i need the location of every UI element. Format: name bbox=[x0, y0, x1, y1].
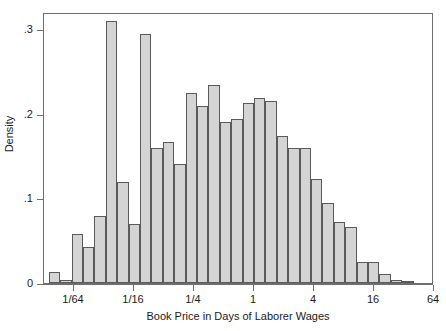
y-tick-label: .3 bbox=[24, 24, 33, 35]
histogram-bar bbox=[368, 262, 379, 283]
histogram-bar bbox=[391, 280, 402, 283]
histogram-bar bbox=[163, 142, 174, 283]
x-tick-label: 1/16 bbox=[122, 293, 143, 305]
histogram-bar bbox=[243, 103, 254, 283]
histogram-bar bbox=[106, 21, 117, 283]
histogram-bar bbox=[49, 272, 60, 283]
histogram-bar bbox=[197, 106, 208, 283]
histogram-bar bbox=[322, 203, 333, 283]
histogram-bar bbox=[117, 182, 128, 283]
y-tick-label: .1 bbox=[24, 193, 33, 204]
histogram-bar bbox=[151, 148, 162, 284]
x-tick-label: 1/64 bbox=[62, 293, 83, 305]
y-tick-mark bbox=[37, 115, 43, 116]
histogram-bar bbox=[186, 93, 197, 283]
histogram-bar bbox=[277, 136, 288, 283]
y-tick-mark bbox=[37, 199, 43, 200]
histogram-bar bbox=[94, 216, 105, 283]
histogram-bar bbox=[288, 148, 299, 284]
histogram-bar bbox=[357, 262, 368, 283]
x-tick-mark bbox=[193, 285, 194, 291]
y-tick-label: .2 bbox=[24, 109, 33, 120]
histogram-bar bbox=[265, 101, 276, 283]
histogram-bar bbox=[60, 280, 71, 283]
x-tick-mark bbox=[73, 285, 74, 291]
histogram-bars bbox=[44, 14, 432, 283]
x-tick-label: 64 bbox=[427, 293, 439, 305]
x-tick-label: 4 bbox=[310, 293, 316, 305]
histogram-bar bbox=[334, 222, 345, 283]
histogram-bar bbox=[300, 148, 311, 283]
histogram-bar bbox=[129, 224, 140, 283]
plot-area bbox=[43, 13, 433, 284]
histogram-bar bbox=[208, 85, 219, 283]
x-tick-mark bbox=[133, 285, 134, 291]
x-tick-label: 16 bbox=[367, 293, 379, 305]
histogram-bar bbox=[345, 227, 356, 283]
x-tick-label: 1/4 bbox=[185, 293, 200, 305]
histogram-bar bbox=[83, 247, 94, 283]
x-axis-title: Book Price in Days of Laborer Wages bbox=[43, 310, 433, 322]
x-tick-label: 1 bbox=[250, 293, 256, 305]
histogram-screenshot: Density 0.1.2.3 Book Price in Days of La… bbox=[0, 0, 446, 331]
histogram-bar bbox=[174, 164, 185, 283]
histogram-bar bbox=[231, 119, 242, 283]
y-tick-mark bbox=[37, 30, 43, 31]
y-axis: Density 0.1.2.3 bbox=[0, 0, 43, 331]
x-tick-mark bbox=[433, 285, 434, 291]
histogram-bar bbox=[311, 179, 322, 283]
histogram-bar bbox=[220, 122, 231, 283]
histogram-bar bbox=[72, 234, 83, 283]
x-axis-line bbox=[43, 284, 433, 285]
x-tick-mark bbox=[313, 285, 314, 291]
x-tick-mark bbox=[373, 285, 374, 291]
histogram-bar bbox=[140, 34, 151, 283]
histogram-bar bbox=[254, 98, 265, 283]
y-axis-title: Density bbox=[3, 104, 15, 164]
x-tick-mark bbox=[253, 285, 254, 291]
x-axis: Book Price in Days of Laborer Wages 1/64… bbox=[0, 284, 446, 331]
histogram-bar bbox=[402, 281, 413, 283]
histogram-bar bbox=[379, 274, 390, 283]
